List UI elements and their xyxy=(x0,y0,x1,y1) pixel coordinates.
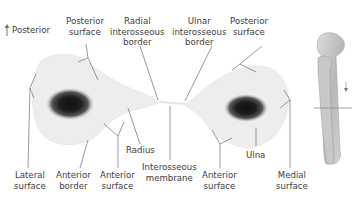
label-anterior-border: Anteriorborder xyxy=(56,170,91,191)
label-radius: Radius xyxy=(126,145,155,156)
posterior-label: Posterior xyxy=(12,25,50,35)
label-interosseous-membrane: Interosseousmembrane xyxy=(142,162,197,183)
label-lateral-surface: Lateralsurface xyxy=(14,170,46,191)
label-anterior-surface-ulna: Anteriorsurface xyxy=(202,170,237,191)
label-posterior-surface-ulna: Posteriorsurface xyxy=(230,16,268,37)
label-medial-surface: Medialsurface xyxy=(276,170,308,191)
interosseous-membrane-shape xyxy=(160,102,186,104)
posterior-orientation-indicator: Posterior xyxy=(4,24,50,36)
radius-marrow xyxy=(46,88,94,120)
label-posterior-surface-radius: Posteriorsurface xyxy=(66,16,104,37)
label-ulnar-interosseous-border: Ulnarinterosseousborder xyxy=(172,16,227,48)
forearm-bones-illustration xyxy=(314,33,352,165)
label-anterior-surface-radius: Anteriorsurface xyxy=(100,170,135,191)
ulna-marrow xyxy=(224,94,268,122)
label-ulna: Ulna xyxy=(246,150,265,161)
up-arrow-icon xyxy=(4,24,10,36)
label-radial-interosseous-border: Radialinterosseousborder xyxy=(110,16,165,48)
